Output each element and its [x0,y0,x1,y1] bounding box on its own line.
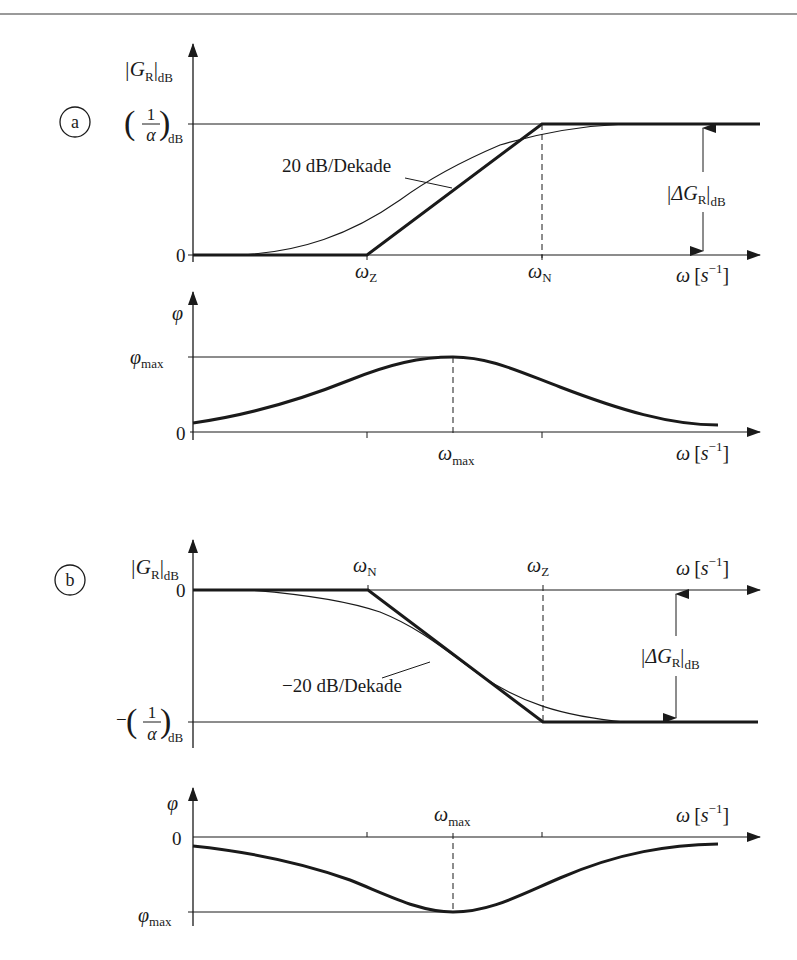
slope-leader [405,178,452,188]
phase-zero-label: 0 [176,423,186,444]
svg-text:b: b [66,570,75,590]
x-axis-label: ω[s−1] [676,554,729,579]
svg-text:(: ( [126,702,137,740]
level-zero-label: 0 [176,580,186,601]
diagram-b-marker: b [55,565,85,595]
y-axis-label: |GR|dB [124,57,173,85]
phase-curve [193,844,718,912]
svg-text:(: ( [124,104,135,142]
corner-z-label: ωZ [355,260,377,285]
diagram-a-marker: a [60,107,90,137]
level-zero-label: 0 [176,245,186,266]
phase-max-label: φmax [130,346,164,371]
svg-text:a: a [71,112,79,132]
slope-label: −20 dB/Dekade [282,675,402,696]
svg-text:1: 1 [147,105,156,124]
omega-max-label: ωmax [438,442,475,468]
phase-zero-label: 0 [172,828,182,849]
phase-axis-label: φ [167,792,178,815]
slope-label: 20 dB/Dekade [282,155,391,176]
diagram-b-magnitude-plot: b |GR|dB 0 − ( 1 α ) dB −20 dB/Dekade ωN… [55,540,760,748]
corner-n-label: ωN [353,554,377,579]
svg-text:α: α [147,724,157,744]
x-axis-label: ω[s−1] [676,801,729,826]
svg-text:dB: dB [168,131,184,146]
svg-text:dB: dB [168,730,184,745]
y-axis-label: |GR|dB [130,555,179,583]
exact-magnitude-curve [240,124,625,255]
x-axis-label: ω[s−1] [676,261,729,286]
x-axis-label: ω[s−1] [676,439,729,464]
corner-z-label: ωZ [527,554,549,579]
diagram-a-phase-plot: φ φmax 0 ωmax ω[s−1] [130,292,760,468]
phase-max-label: φmax [138,904,172,929]
diagram-b-phase-plot: φ 0 φmax ωmax ω[s−1] [138,788,760,929]
svg-text:α: α [146,125,156,145]
bode-diagram-figure: a |GR|dB ( 1 α ) dB 0 20 dB/ [0,0,797,960]
phase-axis-label: φ [172,302,183,325]
omega-max-label: ωmax [434,803,471,829]
svg-text:1: 1 [148,703,157,722]
level-high-label: ( 1 α ) dB [124,104,184,146]
diagram-a-magnitude-plot: a |GR|dB ( 1 α ) dB 0 20 dB/ [60,44,760,286]
exact-magnitude-curve [250,590,625,722]
corner-n-label: ωN [528,260,552,285]
phase-curve [193,357,718,425]
level-low-label: − ( 1 α ) dB [116,702,184,745]
